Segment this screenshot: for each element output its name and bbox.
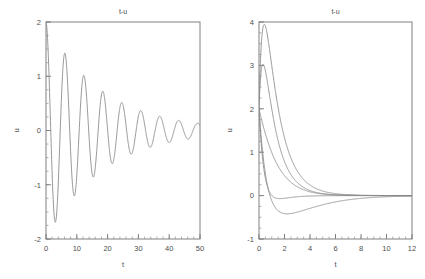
x-tick-label: 8 [359,244,363,253]
chart-panel-right: t-u024681012-101234tu [213,0,425,279]
plot-title: t-u [119,8,127,15]
chart-panel-left: t-u01020304050-2-1012tu [0,0,213,279]
y-tick-label: 1 [250,148,254,157]
y-tick-label: 0 [250,191,254,200]
x-tick-label: 40 [165,244,173,253]
x-tick-label: 2 [282,244,286,253]
plot-frame [46,22,200,239]
x-tick-label: 50 [196,244,204,253]
y-axis-title: u [12,128,21,132]
curve-overshoot-2 [259,64,412,195]
y-axis-title: u [225,128,234,132]
y-tick-label: 0 [37,126,41,135]
plot-title: t-u [331,8,339,15]
x-tick-label: 6 [333,244,337,253]
y-tick-label: 2 [250,105,254,114]
y-tick-label: 4 [250,18,254,27]
x-tick-label: 0 [257,244,261,253]
plot-frame [259,22,412,239]
figure-canvas: t-u01020304050-2-1012tu t-u024681012-101… [0,0,425,279]
x-tick-label: 4 [308,244,312,253]
curve-undershoot [259,109,412,214]
curves-group [259,24,412,213]
y-tick-label: 2 [37,18,41,27]
x-tick-label: 30 [134,244,142,253]
curve-damped-oscillation [46,22,200,222]
y-tick-label: -1 [247,235,254,244]
x-axis-title: t [334,260,337,269]
curve-overshoot-3 [259,109,412,196]
y-tick-label: -1 [34,181,41,190]
x-tick-label: 20 [103,244,111,253]
y-tick-label: 1 [37,72,41,81]
chart-svg-right: t-u024681012-101234tu [213,0,425,279]
x-axis-title: t [122,260,125,269]
x-tick-label: 10 [73,244,81,253]
curve-overshoot-1 [259,24,412,195]
y-tick-label: -2 [34,235,41,244]
x-tick-label: 10 [382,244,390,253]
chart-svg-left: t-u01020304050-2-1012tu [0,0,213,279]
curves-group [46,22,200,222]
x-tick-label: 12 [408,244,416,253]
x-tick-label: 0 [44,244,48,253]
y-tick-label: 3 [250,61,254,70]
